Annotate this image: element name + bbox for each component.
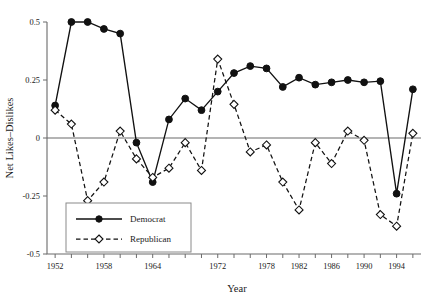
x-tick-label: 1982 <box>291 262 308 271</box>
y-tick-label: 0.25 <box>25 76 40 85</box>
marker-republican <box>263 141 271 149</box>
x-tick-label: 1990 <box>356 262 373 271</box>
marker-republican <box>279 178 287 186</box>
marker-democrat <box>344 77 351 84</box>
y-tick-label: 0.5 <box>30 18 40 27</box>
y-axis-tick-labels: -0.5-0.2500.250.5 <box>23 18 40 259</box>
x-axis-title: Year <box>227 283 247 294</box>
marker-democrat <box>263 65 270 72</box>
x-tick-label: 1972 <box>209 262 226 271</box>
chart-container: -0.5-0.2500.250.5 1952195819641972197819… <box>0 0 429 302</box>
data-series <box>55 22 413 226</box>
marker-republican <box>165 164 173 172</box>
marker-democrat <box>328 79 335 86</box>
chart-legend: DemocratRepublican <box>66 203 191 252</box>
marker-democrat <box>182 95 189 102</box>
marker-democrat <box>393 190 400 197</box>
legend-label: Republican <box>130 234 171 244</box>
legend-marker-filled-circle <box>96 216 102 222</box>
marker-republican <box>246 148 254 156</box>
marker-democrat <box>279 84 286 91</box>
marker-democrat <box>68 19 75 26</box>
marker-republican <box>116 127 124 135</box>
marker-republican <box>197 166 205 174</box>
marker-democrat <box>84 19 91 26</box>
x-tick-label: 1994 <box>388 262 406 271</box>
y-tick-label: -0.5 <box>27 250 40 259</box>
marker-republican <box>409 129 417 137</box>
marker-democrat <box>377 78 384 85</box>
x-tick-label: 1978 <box>258 262 275 271</box>
series-line-republican <box>55 59 413 226</box>
net-likes-dislikes-line-chart: -0.5-0.2500.250.5 1952195819641972197819… <box>0 0 429 302</box>
marker-democrat <box>198 107 205 114</box>
marker-democrat <box>409 86 416 93</box>
y-tick-label: -0.25 <box>23 192 40 201</box>
x-axis-tick-labels: 195219581964197219781982198619901994 <box>47 262 406 271</box>
marker-democrat <box>214 88 221 95</box>
marker-republican <box>181 139 189 147</box>
marker-democrat <box>166 116 173 123</box>
marker-republican <box>214 55 222 63</box>
marker-democrat <box>231 70 238 77</box>
marker-republican <box>393 222 401 230</box>
x-tick-label: 1964 <box>144 262 162 271</box>
marker-democrat <box>296 74 303 81</box>
marker-democrat <box>117 30 124 37</box>
marker-republican <box>344 127 352 135</box>
marker-democrat <box>133 139 140 146</box>
legend-label: Democrat <box>130 214 166 224</box>
marker-democrat <box>361 79 368 86</box>
legend-box <box>66 203 191 252</box>
x-tick-label: 1958 <box>96 262 113 271</box>
data-markers <box>51 19 417 231</box>
y-tick-label: 0 <box>36 134 40 143</box>
marker-democrat <box>101 26 108 33</box>
x-tick-label: 1952 <box>47 262 64 271</box>
y-axis-title: Net Likes–Dislikes <box>4 98 15 179</box>
marker-republican <box>376 211 384 219</box>
marker-democrat <box>247 63 254 70</box>
marker-democrat <box>312 81 319 88</box>
x-tick-label: 1986 <box>323 262 340 271</box>
marker-republican <box>230 100 238 108</box>
marker-republican <box>295 206 303 214</box>
